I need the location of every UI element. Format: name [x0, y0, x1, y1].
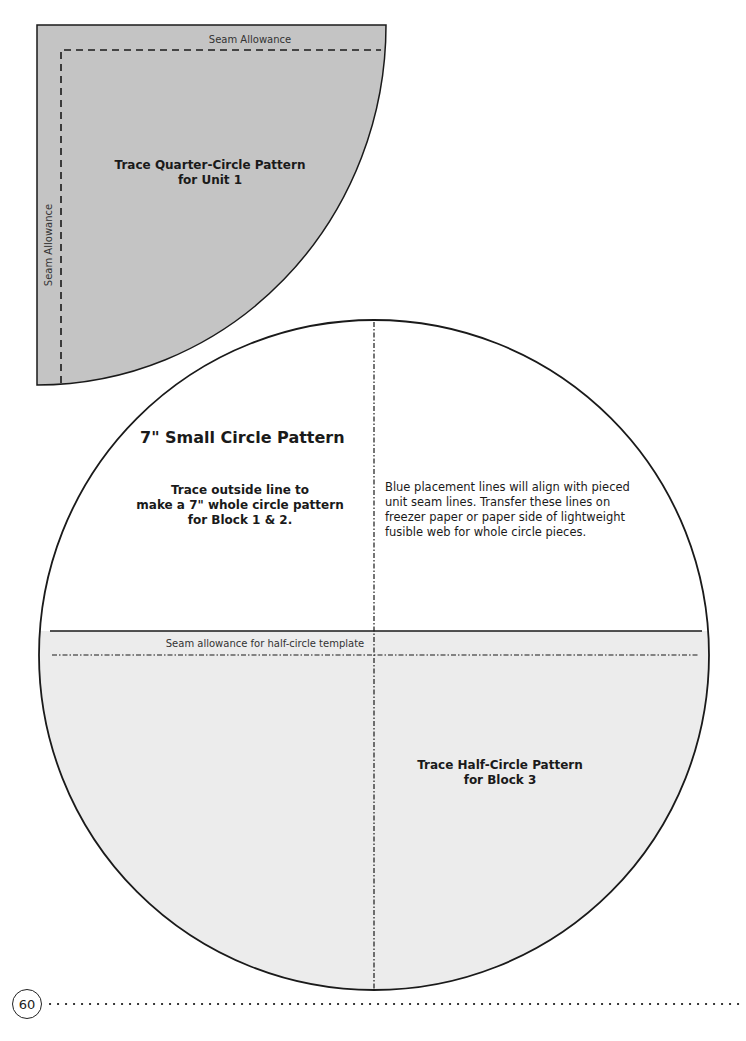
- quarter-title-line1: Trace Quarter-Circle Pattern: [80, 158, 340, 173]
- page-number: 60: [19, 997, 36, 1012]
- placement-note: Blue placement lines will align with pie…: [385, 480, 685, 540]
- quarter-seam-top-label: Seam Allowance: [150, 34, 350, 45]
- page-number-badge: 60: [12, 989, 42, 1019]
- note-line: unit seam lines. Transfer these lines on: [385, 495, 685, 510]
- half-circle-title: Trace Half-Circle Pattern for Block 3: [400, 758, 600, 788]
- quarter-seam-left-label: Seam Allowance: [43, 197, 57, 293]
- instruction-line2: make a 7" whole circle pattern: [120, 498, 360, 513]
- note-line: freezer paper or paper side of lightweig…: [385, 510, 685, 525]
- half-title-line1: Trace Half-Circle Pattern: [400, 758, 600, 773]
- half-title-line2: for Block 3: [400, 773, 600, 788]
- quarter-title-line2: for Unit 1: [80, 173, 340, 188]
- instruction-line1: Trace outside line to: [120, 483, 360, 498]
- half-seam-label: Seam allowance for half-circle template: [160, 638, 370, 649]
- note-line: fusible web for whole circle pieces.: [385, 525, 685, 540]
- small-circle-title: 7" Small Circle Pattern: [140, 428, 340, 447]
- note-line: Blue placement lines will align with pie…: [385, 480, 685, 495]
- quarter-circle-title: Trace Quarter-Circle Pattern for Unit 1: [80, 158, 340, 188]
- small-circle-instructions: Trace outside line to make a 7" whole ci…: [120, 483, 360, 528]
- instruction-line3: for Block 1 & 2.: [120, 513, 360, 528]
